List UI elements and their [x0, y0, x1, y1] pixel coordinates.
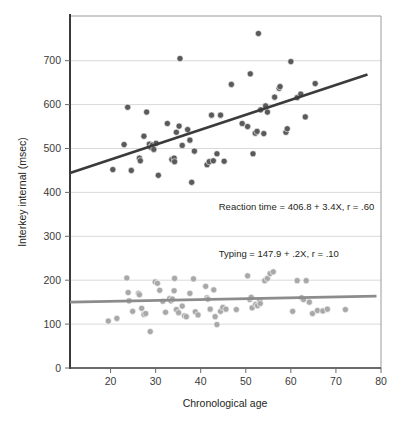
- data-point: [128, 167, 134, 173]
- data-point: [143, 310, 149, 316]
- data-point: [203, 283, 209, 289]
- data-point: [207, 306, 213, 312]
- data-point: [137, 158, 143, 164]
- data-point: [176, 310, 182, 316]
- data-point: [171, 159, 177, 165]
- data-point: [171, 288, 177, 294]
- data-point: [139, 305, 145, 311]
- data-point: [244, 123, 250, 129]
- data-point: [255, 30, 261, 36]
- data-point: [303, 278, 309, 284]
- x-axis-title: Chronological age: [183, 397, 268, 409]
- x-tick-label-80: 80: [375, 375, 387, 387]
- data-point: [110, 166, 116, 172]
- y-tick-label-100: 100: [43, 318, 61, 330]
- data-point: [211, 287, 217, 293]
- data-point: [284, 126, 290, 132]
- data-point: [277, 84, 283, 90]
- data-point: [208, 112, 214, 118]
- data-point: [130, 308, 136, 314]
- x-tick-label-30: 30: [150, 375, 162, 387]
- data-point: [306, 299, 312, 305]
- data-point: [254, 128, 260, 134]
- x-axis-ticks: 20304050607080: [105, 368, 387, 387]
- data-point: [141, 133, 147, 139]
- y-tick-label-700: 700: [43, 54, 61, 66]
- data-point: [179, 303, 185, 309]
- data-point: [155, 172, 161, 178]
- data-point: [312, 80, 318, 86]
- data-point: [177, 55, 183, 61]
- x-tick-label-20: 20: [105, 375, 117, 387]
- data-point: [214, 321, 220, 327]
- data-point: [154, 280, 160, 286]
- data-point: [136, 292, 142, 298]
- x-tick-label-70: 70: [330, 375, 342, 387]
- data-point: [195, 312, 201, 318]
- data-point: [223, 306, 229, 312]
- y-tick-label-400: 400: [43, 186, 61, 198]
- data-point: [190, 276, 196, 282]
- data-point: [221, 158, 227, 164]
- data-point: [244, 273, 250, 279]
- chart-canvas: 0100200300400500600700 20304050607080 Re…: [0, 0, 407, 426]
- data-point: [187, 290, 193, 296]
- data-point: [212, 314, 218, 320]
- data-point: [125, 104, 131, 110]
- data-point: [164, 120, 170, 126]
- data-point: [217, 112, 223, 118]
- data-point: [210, 158, 216, 164]
- data-point: [187, 137, 193, 143]
- x-tick-label-50: 50: [240, 375, 252, 387]
- scatter-plot-figure: 0100200300400500600700 20304050607080 Re…: [0, 0, 407, 426]
- data-point: [144, 109, 150, 115]
- data-point: [324, 306, 330, 312]
- data-point: [183, 314, 189, 320]
- data-point: [294, 278, 300, 284]
- data-point: [228, 81, 234, 87]
- data-point: [247, 71, 253, 77]
- data-point: [189, 179, 195, 185]
- y-tick-label-0: 0: [55, 362, 61, 374]
- data-point: [261, 130, 267, 136]
- data-point: [214, 151, 220, 157]
- data-point: [191, 148, 197, 154]
- data-point: [114, 315, 120, 321]
- data-point: [342, 307, 348, 313]
- data-point: [147, 328, 153, 334]
- y-tick-label-200: 200: [43, 274, 61, 286]
- y-tick-label-300: 300: [43, 230, 61, 242]
- data-point: [185, 127, 191, 133]
- data-point: [179, 142, 185, 148]
- data-point: [272, 94, 278, 100]
- data-point: [157, 287, 163, 293]
- data-point: [250, 151, 256, 157]
- typing-equation-label: Typing = 147.9 + .2X, r = .10: [219, 248, 339, 259]
- data-point: [173, 129, 179, 135]
- data-point: [257, 300, 263, 306]
- data-point: [176, 123, 182, 129]
- x-tick-label-40: 40: [195, 375, 207, 387]
- data-point: [302, 114, 308, 120]
- reaction-time-equation-label: Reaction time = 406.8 + 3.4X, r = .60: [219, 201, 375, 212]
- data-point: [288, 58, 294, 64]
- data-point: [171, 275, 177, 281]
- data-point: [121, 141, 127, 147]
- y-axis-ticks: 0100200300400500600700: [43, 54, 70, 373]
- data-point: [270, 269, 276, 275]
- data-point: [125, 289, 131, 295]
- data-point: [233, 307, 239, 313]
- data-point: [290, 308, 296, 314]
- y-tick-label-600: 600: [43, 98, 61, 110]
- data-point: [264, 109, 270, 115]
- data-point: [124, 275, 130, 281]
- x-tick-label-60: 60: [285, 375, 297, 387]
- y-tick-label-500: 500: [43, 142, 61, 154]
- data-point: [105, 318, 111, 324]
- data-point: [162, 309, 168, 315]
- y-axis-title: Interkey internal (msec): [16, 137, 28, 247]
